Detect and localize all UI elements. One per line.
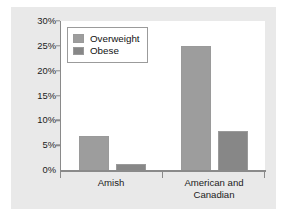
y-tick-label: 10% <box>22 116 56 125</box>
category-label-line: American and <box>163 177 265 189</box>
y-tick-label: 0% <box>22 165 56 174</box>
y-tick-label: 15% <box>22 91 56 100</box>
bar-american-overweight <box>181 46 211 171</box>
y-tick-label: 5% <box>22 140 56 149</box>
chart-legend: Overweight Obese <box>67 27 148 63</box>
y-axis-tick-labels: 30% 25% 20% 15% 10% 5% 0% <box>18 7 56 209</box>
y-tick-label: 30% <box>22 16 56 25</box>
x-axis-category-label-american-and-canadian: American and Canadian <box>163 177 265 200</box>
legend-item-overweight: Overweight <box>73 33 140 45</box>
bar-amish-overweight <box>79 136 109 171</box>
legend-swatch-icon <box>73 34 84 43</box>
y-tick-label: 25% <box>22 41 56 50</box>
x-axis-category-label-amish: Amish <box>60 177 162 189</box>
category-label-line: Amish <box>60 177 162 189</box>
chart-figure: 30% 25% 20% 15% 10% 5% 0% Amish American… <box>11 7 276 209</box>
legend-item-obese: Obese <box>73 45 140 57</box>
bar-american-obese <box>218 131 248 171</box>
legend-label: Obese <box>90 46 119 56</box>
legend-swatch-icon <box>73 47 84 56</box>
category-label-line: Canadian <box>163 189 265 201</box>
y-tick-label: 20% <box>22 66 56 75</box>
legend-label: Overweight <box>90 34 140 44</box>
